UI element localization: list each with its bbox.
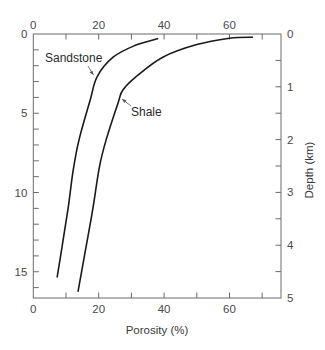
plot-frame <box>33 34 281 298</box>
series-lines <box>57 37 252 291</box>
y-right-tick-label: 5 <box>287 292 293 304</box>
shale-curve <box>78 37 252 291</box>
x-tick-label-bottom: 20 <box>92 303 105 315</box>
x-tick-label-bottom: 60 <box>223 303 236 315</box>
x-tick-label-top: 0 <box>30 19 36 31</box>
shale-label: Shale <box>131 105 162 119</box>
x-tick-label-bottom: 0 <box>30 303 36 315</box>
porosity-depth-chart: 00202040406060051015012345 Sandstone Sha… <box>0 0 325 350</box>
y-right-tick-label: 4 <box>287 239 294 251</box>
sandstone-curve <box>57 39 157 277</box>
y-left-tick-label: 5 <box>21 107 27 119</box>
y-right-tick-label: 1 <box>287 81 293 93</box>
sandstone-arrowhead-icon <box>90 71 94 75</box>
y-right-tick-label: 3 <box>287 186 293 198</box>
y-left-tick-label: 0 <box>21 28 27 40</box>
y-right-tick-label: 0 <box>287 28 293 40</box>
y-left-tick-label: 15 <box>15 266 28 278</box>
y-axis-title: Depth (km) <box>303 141 315 198</box>
sandstone-label: Sandstone <box>45 51 103 65</box>
x-tick-label-top: 60 <box>223 19 236 31</box>
x-tick-label-top: 40 <box>158 19 171 31</box>
x-tick-label-bottom: 40 <box>158 303 171 315</box>
annotations: Sandstone Shale <box>45 51 162 119</box>
x-tick-label-top: 20 <box>92 19 105 31</box>
x-axis-title: Porosity (%) <box>126 324 189 336</box>
y-right-tick-label: 2 <box>287 134 293 146</box>
y-left-tick-label: 10 <box>15 187 28 199</box>
